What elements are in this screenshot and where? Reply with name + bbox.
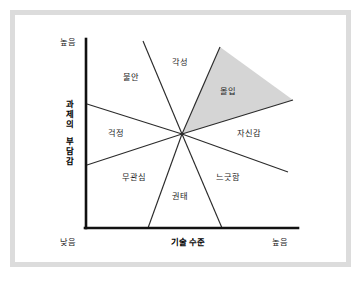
y-axis-title-char-2: 제 (66, 109, 74, 119)
region-label-apathy: 무관심 (122, 172, 146, 182)
x-axis-high-label: 높음 (272, 237, 288, 247)
region-label-flow: 몰입 (220, 86, 236, 96)
region-label-boredom: 권태 (172, 191, 188, 201)
region-label-arousal: 각성 (172, 57, 188, 67)
x-axis-title: 기술 수준 (171, 237, 206, 247)
y-axis-title-char-4: 부 (66, 136, 74, 146)
region-label-relaxation: 느긋함 (216, 172, 240, 182)
y-axis-title-char-5: 담 (66, 146, 74, 156)
divider-line-boredom-apathy (148, 134, 182, 228)
flow-region-highlight (182, 47, 293, 134)
region-label-anxiety: 불안 (123, 72, 139, 82)
divider-line-control-relaxation (182, 134, 288, 172)
flow-channel-diagram: 불안 각성 몰입 자신감 느긋함 권태 무관심 걱정 높음 낮음 높음 기술 수… (0, 0, 361, 284)
divider-line-worry-anxiety (87, 104, 182, 134)
region-label-worry: 걱정 (108, 128, 124, 138)
region-label-control: 자신감 (237, 128, 261, 138)
y-axis-title: 과 제 의 부 담 감 (66, 99, 74, 166)
divider-line-apathy-worry (87, 134, 182, 165)
y-axis-title-char-6: 감 (66, 156, 74, 166)
y-axis-title-char-1: 과 (66, 99, 74, 109)
y-axis-title-char-3: 의 (66, 119, 74, 129)
divider-line-anxiety-arousal (143, 41, 182, 134)
y-axis-high-label: 높음 (60, 37, 76, 47)
y-axis-low-label: 낮음 (60, 237, 76, 247)
